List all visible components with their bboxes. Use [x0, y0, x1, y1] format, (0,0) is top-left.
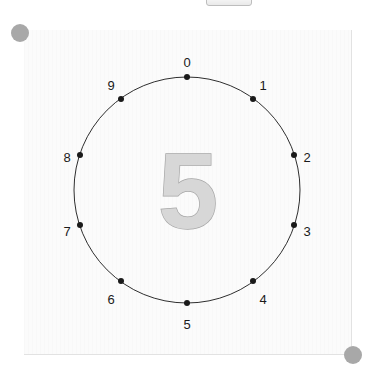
tick-dot-6[interactable] [118, 278, 124, 284]
tick-label-6: 6 [107, 292, 114, 307]
tick-label-2: 2 [303, 150, 310, 165]
center-number-glyph: 5 [158, 130, 216, 251]
tick-dot-5[interactable] [184, 300, 190, 306]
tick-dot-9[interactable] [118, 96, 124, 102]
tick-dot-2[interactable] [291, 152, 297, 158]
tick-label-3: 3 [303, 224, 310, 239]
tick-dot-3[interactable] [291, 222, 297, 228]
dial-graphic: 0123456789 5 [0, 0, 376, 380]
resize-handle-top-left[interactable] [11, 24, 29, 42]
tick-label-8: 8 [63, 150, 70, 165]
tick-label-1: 1 [259, 78, 266, 93]
tick-label-0: 0 [183, 55, 190, 70]
tick-dot-4[interactable] [250, 278, 256, 284]
tick-label-4: 4 [259, 292, 266, 307]
tick-dot-7[interactable] [77, 222, 83, 228]
screenshot-stage: 0123456789 5 [0, 0, 376, 380]
tick-dot-1[interactable] [250, 96, 256, 102]
tick-label-7: 7 [63, 224, 70, 239]
resize-handle-bottom-right[interactable] [344, 346, 362, 364]
tick-dot-0[interactable] [184, 74, 190, 80]
tick-dot-8[interactable] [77, 152, 83, 158]
tick-label-9: 9 [107, 78, 114, 93]
tick-label-5: 5 [183, 317, 190, 332]
